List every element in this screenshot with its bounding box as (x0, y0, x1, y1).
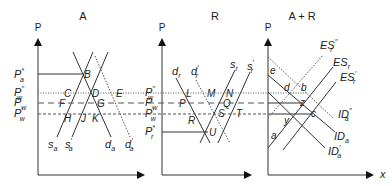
point-c: c (311, 108, 316, 119)
panel-ar: A + R P x e d b z c y a ES′′r ESr ES′r I… (265, 10, 386, 180)
point-H: H (64, 113, 72, 124)
id-a-label: IDa (334, 130, 349, 144)
panel-a-title: A (79, 10, 87, 22)
point-e: e (270, 65, 276, 76)
da-prime-label: d′a (125, 137, 133, 152)
panel-r-title: R (211, 10, 219, 22)
point-E: E (116, 88, 123, 99)
sa-prime-curve (72, 52, 108, 137)
pa-star-label: P*a (14, 67, 24, 83)
point-R: R (188, 115, 195, 126)
point-a: a (271, 130, 277, 141)
point-z: z (299, 97, 305, 108)
point-U: U (209, 127, 217, 138)
svg-text:P*a: P*a (14, 67, 24, 83)
sr-prime-label: s′r (247, 59, 255, 74)
id-a-prime-label: ID′a (328, 144, 341, 159)
id-a-dd-label: ID′′a (338, 107, 352, 122)
da-prime-curve (95, 56, 130, 137)
trade-equilibrium-diagram: A P P*a P′′w Pw P′w B C D E F G H J K (0, 0, 392, 186)
pr-star-label: P*r (145, 124, 155, 140)
es-r-prime-curve (283, 82, 336, 150)
svg-text:P*r: P*r (145, 124, 155, 140)
dr-label: dr (172, 65, 181, 79)
point-J: J (80, 113, 87, 124)
dr-prime-label: d′r (191, 64, 199, 79)
point-K: K (92, 113, 100, 124)
sa-curve (57, 52, 93, 137)
point-y: y (283, 115, 290, 126)
da-label: da (105, 138, 115, 152)
es-r-dd-label: ES′′r (320, 38, 338, 53)
panel-r-y-label: P (159, 22, 166, 33)
panel-ar-title: A + R (288, 10, 315, 22)
panel-a-y-label: P (35, 22, 42, 33)
panel-ar-y-label: P (265, 22, 272, 33)
sa-prime-label: s′a (65, 137, 73, 152)
sr-label: sr (230, 58, 239, 72)
point-B: B (84, 69, 91, 80)
point-b: b (301, 82, 307, 93)
point-d: d (284, 82, 290, 93)
sa-label: sa (48, 138, 58, 152)
es-r-label: ESr (333, 56, 351, 70)
es-r-prime-label: ES′r (340, 70, 357, 85)
panel-ar-x-label: x (379, 168, 386, 180)
